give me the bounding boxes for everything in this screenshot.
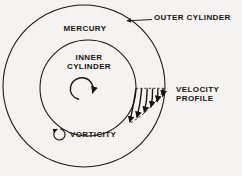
label-inner-cylinder: INNERCYLINDER — [58, 54, 120, 71]
figure-canvas: MERCURY INNERCYLINDER OUTER CYLINDER VEL… — [0, 0, 242, 176]
label-vorticity: VORTICITY — [70, 131, 134, 140]
label-outer-cylinder: OUTER CYLINDER — [154, 14, 242, 23]
velocity-vector — [157, 89, 158, 102]
label-velocity-profile: VELOCITYPROFILE — [176, 86, 240, 103]
label-mercury: MERCURY — [54, 25, 116, 34]
label-velocity-profile-line2: PROFILE — [176, 94, 213, 103]
label-inner-cylinder-line2: CYLINDER — [67, 62, 111, 71]
